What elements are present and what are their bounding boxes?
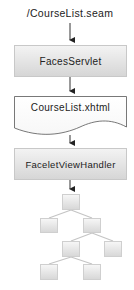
request-url-label: /CourseList.seam [0, 7, 134, 19]
tree-node-l3-left [62, 241, 80, 257]
faces-servlet-label: FacesServlet [40, 56, 102, 67]
tree-node-l3-right [104, 241, 122, 257]
facelet-view-handler-box: FaceletViewHandler [14, 148, 127, 180]
facelet-view-handler-label: FaceletViewHandler [25, 159, 115, 170]
tree-node-l2-left [40, 218, 58, 233]
tree-node-root [62, 194, 80, 210]
tree-node-l4-right [83, 264, 101, 280]
tree-node-l2-right [83, 218, 101, 233]
faces-servlet-box: FacesServlet [14, 45, 127, 77]
course-list-xhtml-label: CourseList.xhtml [14, 102, 127, 113]
tree-node-l4-left [40, 264, 58, 280]
